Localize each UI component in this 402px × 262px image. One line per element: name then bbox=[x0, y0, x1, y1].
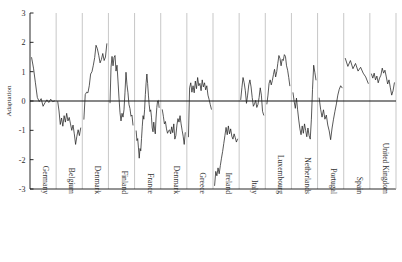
category-label: Ireland bbox=[224, 172, 233, 194]
series-line bbox=[162, 110, 185, 145]
category-label: Italy bbox=[250, 180, 259, 194]
series-line bbox=[371, 68, 394, 95]
series-line bbox=[345, 58, 368, 83]
series-line bbox=[241, 78, 264, 116]
series-line bbox=[136, 74, 159, 158]
series-line bbox=[293, 65, 316, 139]
category-label: Spain bbox=[355, 177, 364, 195]
chart-container: Adaptation 3210-1-2-3 GermanyBelgiumDenm… bbox=[0, 0, 402, 262]
y-tick-label: 1 bbox=[22, 68, 26, 77]
category-label: Greece bbox=[198, 173, 207, 195]
category-label: France bbox=[146, 173, 155, 194]
y-tick-label: -3 bbox=[19, 185, 26, 194]
series-line bbox=[32, 58, 55, 107]
series-line bbox=[110, 56, 133, 126]
y-tick-label: 0 bbox=[22, 97, 26, 106]
category-label: Denmark bbox=[172, 166, 181, 194]
category-label: Portugal bbox=[329, 168, 338, 194]
y-tick-label: 3 bbox=[22, 9, 26, 18]
category-label: United Kingdom bbox=[381, 143, 390, 194]
series-line bbox=[267, 55, 290, 104]
series-line bbox=[84, 44, 107, 119]
category-label: Luxembourg bbox=[276, 155, 285, 194]
y-tick-label: -2 bbox=[19, 156, 26, 165]
series-line bbox=[319, 86, 342, 140]
series-line bbox=[58, 102, 81, 145]
category-label: Finland bbox=[120, 171, 129, 194]
category-label: Netherlands bbox=[303, 157, 312, 194]
category-label: Denmark bbox=[93, 166, 102, 194]
category-label: Germany bbox=[41, 166, 50, 194]
y-tick-label: 2 bbox=[22, 38, 26, 47]
y-axis-title: Adaptation bbox=[5, 85, 13, 117]
adaptation-line-chart: Adaptation 3210-1-2-3 GermanyBelgiumDenm… bbox=[0, 0, 402, 262]
category-label: Belgium bbox=[67, 168, 76, 194]
category-labels: GermanyBelgiumDenmarkFinlandFranceDenmar… bbox=[41, 143, 390, 195]
series-line bbox=[188, 78, 211, 137]
y-tick-label: -1 bbox=[19, 126, 26, 135]
